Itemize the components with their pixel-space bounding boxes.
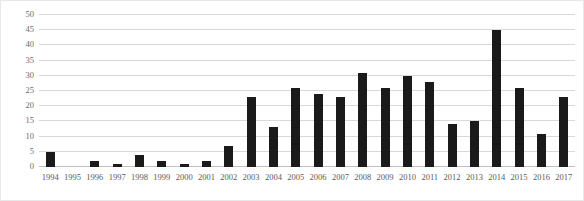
x-axis-tick-label: 2011 (421, 173, 438, 182)
x-axis-tick-label: 1996 (86, 173, 103, 182)
y-axis-tick-label: 0 (30, 162, 34, 171)
bar (358, 73, 367, 167)
x-axis-tick-label: 2006 (310, 173, 327, 182)
y-axis-tick-label: 25 (26, 86, 35, 95)
y-axis-tick-label: 20 (26, 101, 35, 110)
x-axis-tick-label: 2017 (555, 173, 572, 182)
bar (336, 97, 345, 167)
bar (314, 94, 323, 167)
bar-slot: 1998 (128, 15, 150, 167)
bar (157, 161, 166, 167)
bar-slot: 1994 (39, 15, 61, 167)
y-axis-tick-label: 50 (26, 10, 35, 19)
bar (46, 152, 55, 167)
bar (515, 88, 524, 167)
x-axis-tick-label: 1999 (153, 173, 170, 182)
y-axis-tick-label: 45 (26, 25, 35, 34)
bar (448, 124, 457, 167)
bar-slot: 1999 (151, 15, 173, 167)
bar-slot: 2016 (530, 15, 552, 167)
y-axis-tick-label: 10 (26, 131, 35, 140)
bar-slot: 2014 (486, 15, 508, 167)
bar (90, 161, 99, 167)
bar (492, 30, 501, 167)
bar-slot: 1995 (61, 15, 83, 167)
bar (381, 88, 390, 167)
bar-slot: 2011 (419, 15, 441, 167)
bar (180, 164, 189, 167)
bar (470, 121, 479, 167)
bar-slot: 2012 (441, 15, 463, 167)
bar (269, 127, 278, 167)
x-axis-tick-label: 2002 (220, 173, 237, 182)
x-axis-tick-label: 2004 (265, 173, 282, 182)
x-axis-tick-label: 2013 (466, 173, 483, 182)
x-axis-tick-label: 1997 (109, 173, 126, 182)
bar-slot: 2004 (262, 15, 284, 167)
y-axis-tick-label: 40 (26, 40, 35, 49)
x-axis-tick-label: 2014 (488, 173, 505, 182)
x-axis-tick-label: 1998 (131, 173, 148, 182)
x-axis-tick-label: 2009 (377, 173, 394, 182)
x-axis-tick-label: 2003 (243, 173, 260, 182)
bar-series: 1994199519961997199819992000200120022003… (39, 15, 575, 167)
bar-slot: 1997 (106, 15, 128, 167)
bar (403, 76, 412, 167)
bar-slot: 2009 (374, 15, 396, 167)
bar-chart: 50454035302520151050 1994199519961997199… (0, 0, 584, 201)
plot-area: 50454035302520151050 1994199519961997199… (39, 15, 575, 167)
y-axis-tick-label: 15 (26, 116, 35, 125)
bar-slot: 2003 (240, 15, 262, 167)
bar (247, 97, 256, 167)
x-axis-tick-label: 2000 (176, 173, 193, 182)
x-axis-tick-label: 1994 (42, 173, 59, 182)
bar-slot: 2013 (463, 15, 485, 167)
bar (559, 97, 568, 167)
bar-slot: 2005 (285, 15, 307, 167)
bar-slot: 2008 (352, 15, 374, 167)
x-axis-tick-label: 2007 (332, 173, 349, 182)
bar (113, 164, 122, 167)
x-axis-tick-label: 2005 (287, 173, 304, 182)
y-axis-tick-label: 30 (26, 71, 35, 80)
bar (537, 134, 546, 167)
x-axis-tick-label: 2015 (511, 173, 528, 182)
bar-slot: 2017 (553, 15, 575, 167)
bar-slot: 2010 (396, 15, 418, 167)
bar-slot: 2001 (195, 15, 217, 167)
x-axis-tick-label: 2016 (533, 173, 550, 182)
x-axis-tick-label: 1995 (64, 173, 81, 182)
bar (425, 82, 434, 167)
bar-slot: 2006 (307, 15, 329, 167)
bar-slot: 2007 (329, 15, 351, 167)
bar-slot: 2015 (508, 15, 530, 167)
y-axis-tick-label: 5 (30, 147, 34, 156)
x-axis-tick-label: 2001 (198, 173, 215, 182)
bar (202, 161, 211, 167)
bar-slot: 2000 (173, 15, 195, 167)
x-axis-tick-label: 2012 (444, 173, 461, 182)
x-axis-tick-label: 2008 (354, 173, 371, 182)
bar (224, 146, 233, 167)
bar-slot: 1996 (84, 15, 106, 167)
bar-slot: 2002 (218, 15, 240, 167)
y-axis-tick-label: 35 (26, 55, 35, 64)
bar (135, 155, 144, 167)
bar (291, 88, 300, 167)
x-axis-tick-label: 2010 (399, 173, 416, 182)
